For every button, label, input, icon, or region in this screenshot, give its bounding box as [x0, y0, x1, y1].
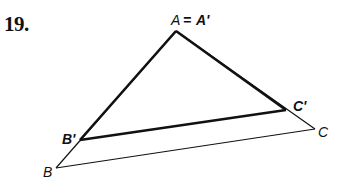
label-B: B — [43, 164, 52, 180]
label-A: A — [170, 12, 180, 28]
triangle-dilation-figure: A = A' B' B C' C — [0, 0, 346, 188]
diagram-canvas: 19. A = A' B' B C' C — [0, 0, 346, 188]
segment-A-prime-C-prime — [176, 31, 286, 110]
label-equals: = — [183, 12, 191, 28]
segment-B-prime-C-prime — [80, 110, 286, 140]
label-C-prime: C' — [293, 98, 307, 114]
segment-A-prime-B-prime — [80, 31, 176, 140]
label-B-prime: B' — [62, 131, 76, 147]
label-C: C — [318, 124, 329, 140]
segment-BC — [56, 129, 315, 168]
label-A-prime: A' — [195, 12, 210, 28]
